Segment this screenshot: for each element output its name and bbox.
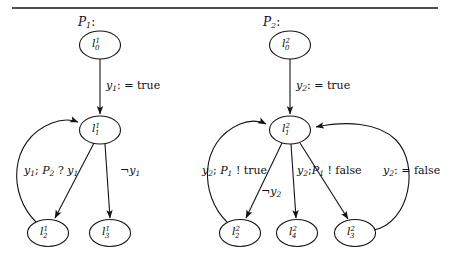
diagram-svg: [0, 0, 449, 260]
edge-label-p1-init: y1: = true: [106, 80, 160, 93]
node-l10-shape: [80, 31, 121, 59]
node-l21-shape: [270, 116, 311, 144]
process-title-p2-text: P: [263, 15, 271, 29]
node-l12-shape: [28, 220, 69, 247]
node-label-l12: l12: [40, 226, 47, 240]
process-title-p1-colon: :: [91, 15, 95, 29]
node-label-l21: l21: [282, 123, 289, 137]
node-label-l22: l22: [232, 226, 239, 240]
process-title-p1-text: P: [78, 15, 86, 29]
node-l11-shape: [80, 116, 121, 144]
edge-label-p2-mid: ¬y2: [261, 186, 281, 199]
node-label-l11: l11: [92, 123, 99, 137]
edge-label-p1-left: y1; P2 ? y1: [24, 165, 78, 178]
edge-l21-to-l23: [300, 143, 348, 219]
edge-label-p2-init: y2: = true: [296, 80, 350, 93]
diagram-canvas: P1: P2: l10 l11 l12 l13 l20 l21 l22 l24 …: [0, 0, 449, 260]
node-label-l20: l20: [282, 38, 289, 52]
node-label-l24: l24: [289, 226, 296, 240]
node-l13-shape: [90, 220, 131, 247]
process-title-p2: P2:: [263, 16, 280, 30]
node-l23-shape: [335, 220, 376, 247]
node-l24-shape: [277, 220, 318, 247]
edge-label-p2-left: y2; P1 ! true: [202, 165, 267, 178]
node-l20-shape: [270, 31, 311, 59]
process-title-p1: P1:: [78, 16, 95, 30]
edge-label-p2-far: y2: = false: [383, 165, 440, 178]
node-label-l13: l13: [102, 226, 109, 240]
edge-l11-to-l13: [105, 144, 110, 218]
edge-l11-to-l12: [55, 143, 94, 218]
process-title-p2-colon: :: [276, 15, 280, 29]
edge-label-p1-right: ¬y1: [120, 165, 140, 178]
edge-l21-to-l22: [246, 143, 282, 218]
edge-label-p2-right: y2;P1 ! false: [297, 165, 362, 178]
node-l22-shape: [220, 220, 261, 247]
node-label-l10: l10: [92, 38, 99, 52]
node-label-l23: l23: [347, 226, 354, 240]
edge-l21-to-l24: [291, 144, 296, 218]
